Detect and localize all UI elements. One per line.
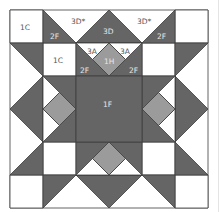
label-2f-inner-right: 2F (129, 66, 138, 75)
label-3d-center: 3D (103, 27, 114, 36)
white-square (175, 175, 208, 208)
label-3a-left: 3A (87, 47, 98, 56)
white-square (10, 175, 43, 208)
label-3d-star-right: 3D* (137, 17, 152, 26)
quilt-block: 1C 2F 3D* 3D 3D* 2F 1C 3A 3A 1H 2F 2F 1F (0, 0, 220, 212)
label-2f-top-left: 2F (50, 32, 59, 41)
label-3d-star-left: 3D* (71, 17, 86, 26)
white-square (142, 142, 175, 175)
white-square (175, 10, 208, 43)
label-1c-inner: 1C (53, 56, 63, 65)
label-1c-corner: 1C (20, 23, 30, 32)
label-2f-inner-left: 2F (80, 66, 89, 75)
label-1f-center: 1F (103, 100, 112, 109)
label-3a-right: 3A (120, 47, 131, 56)
label-2f-top-right: 2F (157, 32, 166, 41)
label-1h: 1H (104, 57, 114, 66)
center-square-1f (76, 76, 142, 142)
white-square (142, 43, 175, 76)
white-square (43, 142, 76, 175)
